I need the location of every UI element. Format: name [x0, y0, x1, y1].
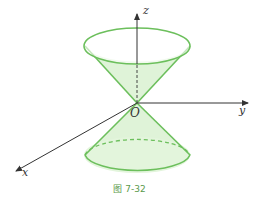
double-cone-figure: z y x O 图 7-32	[0, 0, 259, 202]
cone-diagram	[0, 0, 259, 202]
origin-label: O	[130, 106, 140, 120]
z-axis-label: z	[143, 4, 149, 17]
figure-caption: 图 7-32	[0, 182, 259, 195]
x-axis-label: x	[22, 166, 28, 179]
y-axis-label: y	[239, 104, 245, 117]
